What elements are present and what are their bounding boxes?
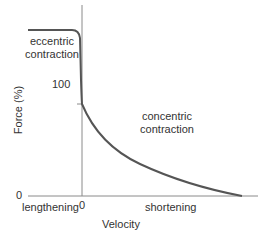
x-label-lengthening: lengthening — [22, 201, 79, 214]
y-tick-label-100: 100 — [52, 78, 70, 91]
x-label-shortening: shortening — [145, 201, 196, 214]
eccentric-line2: contraction — [22, 48, 82, 61]
x-tick-label-0: 0 — [79, 199, 85, 212]
concentric-line1: concentric — [134, 110, 200, 123]
eccentric-line1: eccentric — [22, 35, 82, 48]
eccentric-label: eccentric contraction — [22, 35, 82, 61]
concentric-line2: contraction — [134, 123, 200, 136]
concentric-label: concentric contraction — [134, 110, 200, 136]
y-axis-label: Force (%) — [12, 80, 24, 140]
x-axis-label: Velocity — [102, 218, 140, 231]
